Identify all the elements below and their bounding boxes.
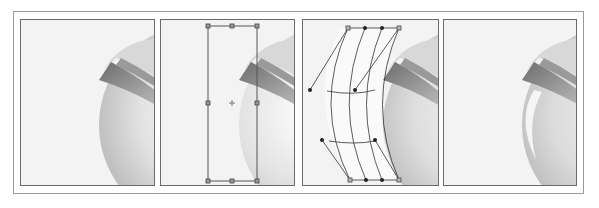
sphere-with-bounding-box: [161, 20, 295, 186]
panel-step-2: [160, 19, 295, 186]
panel-step-3: [302, 19, 439, 186]
sphere-final-result: [444, 20, 577, 186]
sphere-illustration: [21, 20, 155, 186]
sphere-with-envelope-mesh: [303, 20, 439, 186]
panel-step-4: [443, 19, 577, 186]
panel-step-1: [20, 19, 155, 186]
center-point-icon: [229, 100, 235, 106]
